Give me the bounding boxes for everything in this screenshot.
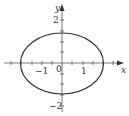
y-tick-label-neg2: −2: [49, 101, 62, 111]
x-axis-label: x: [121, 65, 126, 75]
x-tick-label-neg1: −1: [35, 66, 48, 76]
y-tick-label-2: 2: [53, 15, 59, 25]
y-axis-label: y: [54, 3, 61, 13]
x-tick-label-1: 1: [81, 66, 87, 76]
labels-layer: y x 2 −2 −1 0 1: [0, 0, 129, 116]
origin-label: 0: [56, 64, 62, 74]
